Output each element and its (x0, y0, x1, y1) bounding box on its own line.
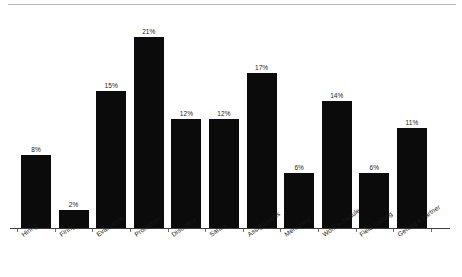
bar-salary: 12% (205, 107, 243, 228)
bar-rect (209, 119, 239, 228)
bar-mentoring: 6% (280, 161, 318, 228)
bar-value-label: 15% (92, 82, 130, 90)
axis-tick (318, 229, 319, 232)
bar-assignments: 17% (243, 61, 281, 228)
bar-evaluation: 15% (92, 79, 130, 228)
axis-tick (243, 229, 244, 232)
bar-work-schedule: 14% (318, 89, 356, 228)
axis-tick (17, 229, 18, 232)
top-divider-rule (8, 4, 456, 5)
axis-tick (92, 229, 93, 232)
axis-tick (431, 229, 432, 232)
bar-chart: 8%2%15%21%12%12%17%6%14%6%11% HiringFiri… (0, 0, 462, 277)
bar-firing: 2% (55, 198, 93, 228)
bar-rect (134, 37, 164, 228)
bar-hiring: 8% (17, 143, 55, 228)
bar-promotion: 21% (130, 25, 168, 228)
bar-value-label: 21% (130, 28, 168, 36)
bar-rect (96, 91, 126, 228)
bar-value-label: 12% (167, 110, 205, 118)
axis-tick (55, 229, 56, 232)
bar-value-label: 6% (355, 164, 393, 172)
bar-discipline: 12% (167, 107, 205, 228)
bar-rect (171, 119, 201, 228)
bar-value-label: 2% (55, 201, 93, 209)
bar-value-label: 17% (243, 64, 281, 72)
axis-tick (280, 229, 281, 232)
axis-tick (205, 229, 206, 232)
bar-value-label: 6% (280, 164, 318, 172)
bar-rect (21, 155, 51, 228)
axis-tick (130, 229, 131, 232)
bar-rect (247, 73, 277, 228)
axis-tick (393, 229, 394, 232)
bar-rect (322, 101, 352, 228)
bar-value-label: 11% (393, 119, 431, 127)
bar-value-label: 8% (17, 146, 55, 154)
bar-value-label: 14% (318, 92, 356, 100)
bar-value-label: 12% (205, 110, 243, 118)
